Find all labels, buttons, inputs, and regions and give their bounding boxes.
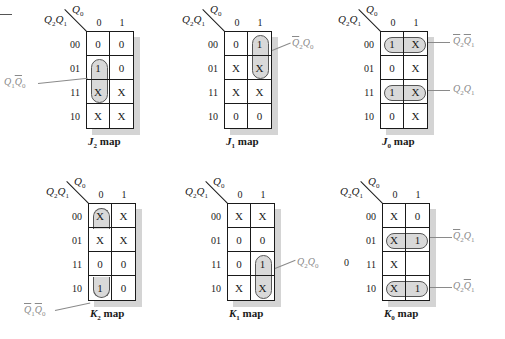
k1-cell: X bbox=[251, 204, 274, 228]
j0-row-header: 00 bbox=[358, 39, 374, 50]
j0-col-header: 1 bbox=[405, 17, 428, 28]
j0-row-variable: Q2Q1 bbox=[338, 13, 361, 28]
j2-cell: X bbox=[87, 104, 110, 128]
annotation-k2-arrow bbox=[55, 303, 90, 311]
k0-cell: X bbox=[383, 228, 406, 252]
j0-row-header: 10 bbox=[358, 111, 374, 122]
k2-cell: 0 bbox=[112, 252, 135, 276]
j1-row-variable: Q2Q1 bbox=[182, 13, 205, 28]
annotation-j0-bot-arrow bbox=[428, 90, 450, 91]
j2-cell: X bbox=[87, 80, 110, 104]
k2-col-header: 0 bbox=[90, 189, 113, 200]
k2-col-header: 1 bbox=[113, 189, 136, 200]
j1-col-variable: Q0 bbox=[210, 3, 221, 18]
j1-cell: 0 bbox=[225, 104, 248, 128]
j0-cell: 0 bbox=[381, 56, 404, 80]
annotation-j0-bot-term: Q2Q1 bbox=[453, 83, 474, 97]
j0-cell: X bbox=[404, 56, 427, 80]
j1-row-header: 01 bbox=[202, 63, 218, 74]
j0-cell: X bbox=[404, 104, 427, 128]
k2-cell: X bbox=[112, 228, 135, 252]
k0-row-header: 10 bbox=[360, 283, 376, 294]
j2-cell: 0 bbox=[87, 32, 110, 56]
annotation-k1-arrow bbox=[275, 260, 296, 269]
k1-row-header: 11 bbox=[205, 259, 221, 270]
j2-row-header: 00 bbox=[64, 39, 80, 50]
annotation-j1-arrow bbox=[272, 43, 291, 51]
annotation-j0-top-term: Q2Q1 bbox=[453, 35, 474, 49]
annotation-j2-term: Q1Q0 bbox=[4, 76, 25, 90]
k0-col-variable: Q0 bbox=[368, 175, 379, 190]
k2-row-header: 00 bbox=[66, 211, 82, 222]
k1-col-header: 0 bbox=[229, 189, 252, 200]
j0-cell: 0 bbox=[381, 104, 404, 128]
j2-col-variable: Q0 bbox=[72, 3, 83, 18]
k1-row-variable: Q2Q1 bbox=[185, 185, 208, 200]
j0-cell: 1 bbox=[381, 80, 404, 104]
j0-row-header: 11 bbox=[358, 87, 374, 98]
annotation-k0-top-term: Q2Q1 bbox=[453, 230, 474, 244]
k1-col-header: 1 bbox=[252, 189, 275, 200]
j1-col-header: 1 bbox=[249, 17, 272, 28]
j0-row-header: 01 bbox=[358, 63, 374, 74]
j1-row-header: 00 bbox=[202, 39, 218, 50]
k0-cell: X bbox=[383, 204, 406, 228]
k0-cell: 1 bbox=[406, 228, 429, 252]
j1-cell: 0 bbox=[225, 32, 248, 56]
k0-cell: X bbox=[383, 276, 406, 300]
j2-row-header: 10 bbox=[64, 111, 80, 122]
k0-cell bbox=[406, 252, 429, 276]
k0-col-header: 1 bbox=[407, 189, 430, 200]
j0-cell: X bbox=[404, 32, 427, 56]
annotation-k0-bot-arrow bbox=[430, 287, 452, 288]
k1-cell: 0 bbox=[228, 252, 251, 276]
k0-map-grid: X0X1XX1 bbox=[382, 203, 430, 301]
k2-row-header: 01 bbox=[66, 235, 82, 246]
k0-cell: 1 bbox=[406, 276, 429, 300]
k2-cell: 0 bbox=[89, 252, 112, 276]
j0-cell: 1 bbox=[381, 32, 404, 56]
k2-col-variable: Q0 bbox=[74, 175, 85, 190]
j1-col-header: 0 bbox=[226, 17, 249, 28]
k1-row-header: 10 bbox=[205, 283, 221, 294]
k1-map-caption: K1 map bbox=[229, 307, 263, 322]
k2-row-header: 11 bbox=[66, 259, 82, 270]
j0-col-header: 0 bbox=[382, 17, 405, 28]
k2-row-variable: Q2Q1 bbox=[46, 185, 69, 200]
j2-cell: X bbox=[110, 80, 133, 104]
j1-cell: X bbox=[225, 80, 248, 104]
j0-map-grid: 1X0X1X0X bbox=[380, 31, 428, 129]
k0-row-header: 11 bbox=[360, 259, 376, 270]
k0-row-header: 01 bbox=[360, 235, 376, 246]
annotation-k0-bot-term: Q2Q1 bbox=[453, 280, 474, 294]
j2-row-variable: Q2Q1 bbox=[44, 13, 67, 28]
k1-cell: 1 bbox=[251, 252, 274, 276]
j2-col-header: 0 bbox=[88, 17, 111, 28]
k0-cell: 0 bbox=[406, 204, 429, 228]
k1-cell: X bbox=[228, 204, 251, 228]
j1-cell: X bbox=[248, 56, 271, 80]
j2-map-grid: 0010XXXX bbox=[86, 31, 134, 129]
j1-cell: 0 bbox=[248, 104, 271, 128]
stray-value: 0 bbox=[344, 257, 349, 268]
annotation-j1-term: Q2Q0 bbox=[292, 37, 313, 51]
j1-cell: 1 bbox=[248, 32, 271, 56]
j1-cell: X bbox=[225, 56, 248, 80]
k1-map-grid: XX0001XX bbox=[227, 203, 275, 301]
annotation-k2-term: Q1Q0 bbox=[24, 304, 45, 318]
k1-cell: X bbox=[228, 276, 251, 300]
k1-row-header: 00 bbox=[205, 211, 221, 222]
k0-col-header: 0 bbox=[384, 189, 407, 200]
j2-cell: 0 bbox=[110, 56, 133, 80]
annotation-k0-top-arrow bbox=[430, 237, 452, 238]
j1-map-caption: J1 map bbox=[226, 135, 259, 150]
k0-cell: X bbox=[383, 252, 406, 276]
j2-col-header: 1 bbox=[111, 17, 134, 28]
j2-cell: 0 bbox=[110, 32, 133, 56]
k2-cell: X bbox=[89, 204, 112, 228]
annotation-j0-top-arrow bbox=[428, 42, 450, 43]
j0-map-caption: J0 map bbox=[382, 135, 415, 150]
k1-cell: 0 bbox=[251, 228, 274, 252]
j2-row-header: 11 bbox=[64, 87, 80, 98]
j2-map-caption: J2 map bbox=[88, 135, 121, 150]
